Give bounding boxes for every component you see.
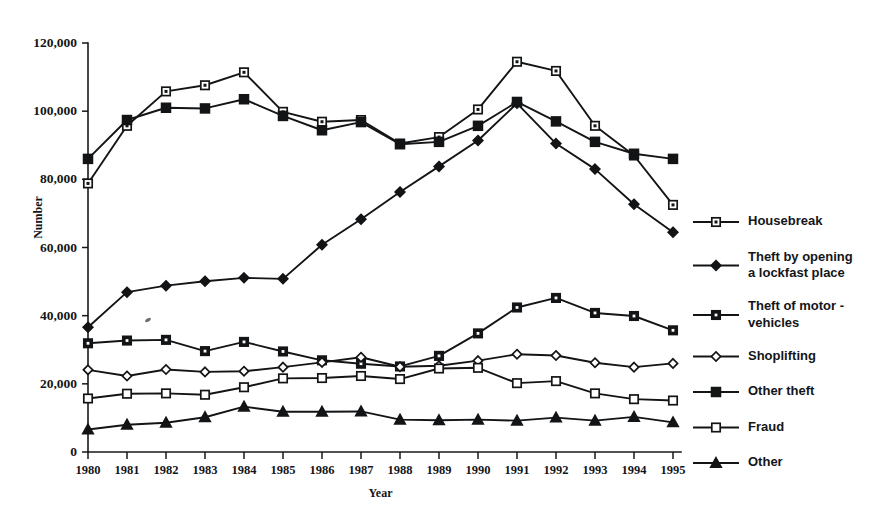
data-point-marker <box>239 273 249 283</box>
data-point-marker <box>712 388 721 397</box>
legend: HousebreakTheft by openinga lockfast pla… <box>693 213 853 469</box>
data-point-marker <box>318 126 327 135</box>
axes: 020,00040,00060,00080,000100,000120,0001… <box>31 35 686 500</box>
data-point-marker <box>552 377 560 385</box>
data-point-marker <box>200 276 210 286</box>
legend-item[interactable]: Other theft <box>693 383 815 398</box>
y-axis-tick-label: 40,000 <box>40 308 77 323</box>
chart-page: 020,00040,00060,00080,000100,000120,0001… <box>0 0 887 522</box>
data-point-marker <box>551 351 560 360</box>
data-point-marker <box>513 303 521 311</box>
y-axis-tick-label: 60,000 <box>40 240 77 255</box>
data-point-marker <box>84 339 92 347</box>
data-point-marker <box>552 67 560 75</box>
data-point-marker <box>162 389 170 397</box>
y-axis-tick-label: 100,000 <box>33 103 77 118</box>
x-axis-tick-label: 1985 <box>271 463 296 477</box>
series-line <box>88 298 673 367</box>
data-point-marker <box>240 383 248 391</box>
data-point-marker <box>669 396 677 404</box>
x-axis-tick-label: 1984 <box>232 463 258 477</box>
x-axis-tick-label: 1994 <box>622 463 648 477</box>
data-point-marker <box>161 365 170 374</box>
y-axis-tick-label: 20,000 <box>40 376 77 391</box>
data-point-marker <box>669 201 677 209</box>
data-point-marker <box>279 347 287 355</box>
legend-label: vehicles <box>748 315 799 330</box>
data-point-marker <box>318 118 326 126</box>
legend-item[interactable]: Shoplifting <box>693 348 816 363</box>
legend-item[interactable]: Fraud <box>693 419 784 434</box>
data-point-marker <box>552 294 560 302</box>
x-axis-tick-label: 1983 <box>193 463 218 477</box>
data-point-marker <box>201 347 209 355</box>
legend-item[interactable]: Theft of motor -vehicles <box>693 298 844 330</box>
data-point-marker <box>711 352 720 361</box>
data-point-marker <box>357 372 365 380</box>
data-point-marker <box>668 359 677 368</box>
data-point-marker <box>240 338 248 346</box>
data-point-marker <box>162 336 170 344</box>
data-point-marker <box>122 371 131 380</box>
data-point-marker <box>123 390 131 398</box>
data-point-marker <box>123 116 132 125</box>
y-axis-title: Number <box>31 196 45 239</box>
data-point-marker <box>279 112 288 121</box>
data-point-marker <box>513 98 522 107</box>
data-point-marker <box>84 394 92 402</box>
legend-label: a lockfast place <box>748 265 845 280</box>
legend-label: Housebreak <box>748 213 823 228</box>
data-point-marker <box>84 154 93 163</box>
data-point-marker <box>591 122 599 130</box>
data-point-marker <box>474 105 482 113</box>
legend-label: Shoplifting <box>748 348 816 363</box>
x-axis-tick-label: 1993 <box>583 463 608 477</box>
data-point-marker <box>200 367 209 376</box>
data-point-marker <box>201 81 209 89</box>
legend-item[interactable]: Theft by openinga lockfast place <box>693 249 853 281</box>
data-point-marker <box>669 326 677 334</box>
data-series <box>84 95 678 163</box>
legend-item[interactable]: Housebreak <box>693 213 823 228</box>
x-axis-tick-label: 1989 <box>427 463 452 477</box>
x-axis-title: Year <box>369 486 394 500</box>
data-point-marker <box>201 391 209 399</box>
series-group <box>83 58 678 434</box>
series-line <box>88 407 673 430</box>
legend-label: Fraud <box>748 419 784 434</box>
data-point-marker <box>474 364 482 372</box>
x-axis-tick-label: 1995 <box>661 463 686 477</box>
data-point-marker <box>591 389 599 397</box>
data-point-marker <box>239 401 249 410</box>
data-point-marker <box>590 358 599 367</box>
data-point-marker <box>161 281 171 291</box>
x-axis-tick-label: 1991 <box>505 463 530 477</box>
x-axis-tick-label: 1986 <box>310 463 335 477</box>
series-line <box>88 368 673 401</box>
scan-artifact <box>144 317 151 323</box>
data-series <box>83 401 678 433</box>
data-point-marker <box>435 364 443 372</box>
data-point-marker <box>240 68 248 76</box>
data-point-marker <box>162 87 170 95</box>
data-point-marker <box>123 336 131 344</box>
x-axis-tick-label: 1982 <box>154 463 179 477</box>
data-point-marker <box>552 117 561 126</box>
legend-label: Theft by opening <box>748 249 853 264</box>
data-point-marker <box>630 312 638 320</box>
data-point-marker <box>162 103 171 112</box>
data-point-marker <box>712 311 720 319</box>
data-point-marker <box>712 423 720 431</box>
x-axis-tick-label: 1987 <box>349 463 374 477</box>
data-point-marker <box>239 367 248 376</box>
legend-item[interactable]: Other <box>693 454 783 469</box>
data-point-marker <box>712 218 720 226</box>
legend-label: Other theft <box>748 383 815 398</box>
data-point-marker <box>201 104 210 113</box>
data-point-marker <box>278 363 287 372</box>
y-axis-tick-label: 120,000 <box>33 35 77 50</box>
line-chart: 020,00040,00060,00080,000100,000120,0001… <box>0 0 887 522</box>
data-point-marker <box>435 137 444 146</box>
data-point-marker <box>630 149 639 158</box>
data-point-marker <box>474 329 482 337</box>
